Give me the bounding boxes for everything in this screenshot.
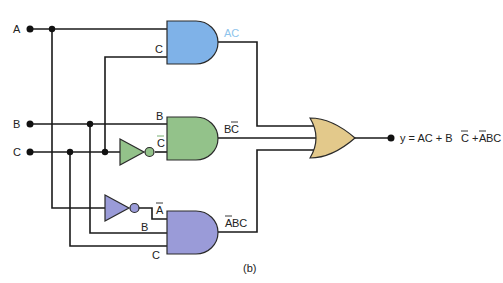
- and1-output-label: AC: [224, 27, 239, 39]
- not-gate-a: [105, 195, 129, 221]
- junction-dot: [102, 149, 108, 155]
- and3-input-label-b: B: [141, 221, 148, 233]
- and1-input-label-c: C: [155, 43, 163, 55]
- and-gate-3: [167, 211, 218, 254]
- or-gate: [310, 118, 355, 158]
- wire-b-branch: [90, 124, 167, 233]
- input-label-b: B: [13, 118, 20, 130]
- not-gate-a-bubble: [130, 204, 139, 213]
- output-terminal-y: [388, 135, 395, 142]
- output-expression: y = AC + B C + A BC: [400, 131, 501, 144]
- wire-c-to-and3: [70, 152, 167, 246]
- and3-input-label-abar: A: [156, 204, 164, 216]
- not-gate-c-bubble: [145, 148, 154, 157]
- and2-output-label-cbar: C: [231, 123, 239, 135]
- output-expr-bc: BC: [486, 132, 501, 144]
- and-gate-1: [167, 21, 218, 64]
- wire-and1-out: [218, 42, 314, 126]
- and-gate-2: [167, 117, 218, 160]
- wire-a-branch: [52, 29, 105, 208]
- figure-caption: (b): [243, 262, 256, 274]
- and2-input-label-cbar: C: [157, 137, 165, 149]
- input-terminal-b: [27, 121, 34, 128]
- output-expr-prefix: y = AC + B: [400, 132, 453, 144]
- input-terminal-a: [27, 26, 34, 33]
- and2-input-label-b: B: [156, 110, 163, 122]
- not-gate-c: [120, 139, 144, 165]
- junction-dot: [67, 149, 73, 155]
- and3-output-label-bc: BC: [232, 217, 247, 229]
- and3-input-label-c: C: [152, 249, 160, 261]
- input-label-c: C: [13, 146, 21, 158]
- input-label-a: A: [13, 23, 21, 35]
- junction-dot: [87, 121, 93, 127]
- junction-dot: [49, 26, 55, 32]
- logic-circuit-diagram: A B C C AC B C B C A B C A BC y = AC + B…: [0, 0, 503, 283]
- input-terminal-c: [27, 149, 34, 156]
- output-expr-cbar: C: [461, 132, 469, 144]
